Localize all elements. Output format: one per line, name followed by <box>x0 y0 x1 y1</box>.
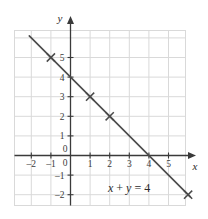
x-axis-tick-label: –2 <box>26 159 37 169</box>
x-axis-label: x <box>192 160 198 172</box>
y-axis-tick-label: –1 <box>54 171 65 181</box>
x-axis-tick-label: 2 <box>107 159 112 169</box>
x-axis-tick-label: 0 <box>63 158 68 168</box>
x-axis-tick-label: –1 <box>45 159 56 169</box>
y-axis-tick-label: 3 <box>60 92 65 102</box>
y-axis-tick-label: 4 <box>60 73 65 83</box>
y-axis-label: y <box>57 12 63 24</box>
equation-annotation: x + y = 4 <box>107 181 150 195</box>
y-axis-arrow <box>67 16 74 24</box>
x-axis-tick-label: 3 <box>127 159 132 169</box>
y-axis-tick-label: 0 <box>63 144 68 154</box>
x-axis-tick-label: 4 <box>147 159 152 169</box>
y-axis-tick-label: 1 <box>60 131 65 141</box>
x-axis-tick-label: 1 <box>88 159 93 169</box>
axis-ticks <box>31 58 168 195</box>
x-axis-tick-label: 5 <box>166 159 171 169</box>
y-axis-tick-label: 5 <box>60 53 65 63</box>
y-axis-tick-label: –2 <box>54 190 65 200</box>
y-axis-tick-label: 2 <box>60 112 65 122</box>
grid-border <box>15 31 186 206</box>
grid-lines <box>15 31 186 206</box>
graph-figure: –2–1012345–2–1012345xyx + y = 4 <box>0 0 208 219</box>
x-axis-tick-labels: –2–1012345 <box>26 158 172 169</box>
x-axis-arrow <box>188 152 196 159</box>
coordinate-plane-plot: –2–1012345–2–1012345xyx + y = 4 <box>0 0 208 219</box>
y-axis-tick-labels: –2–1012345 <box>54 53 68 200</box>
